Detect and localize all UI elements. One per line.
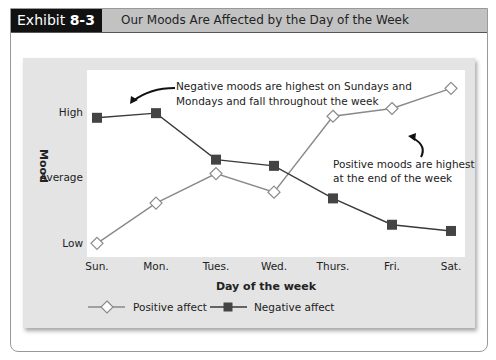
legend-label-negative: Negative affect — [254, 301, 334, 313]
y-tick-average: Average — [40, 171, 83, 183]
legend-item-negative: Negative affect — [210, 301, 334, 313]
legend-item-positive: Positive affect — [88, 301, 207, 313]
open-diamond-icon — [101, 301, 113, 313]
y-tick-low: Low — [62, 237, 83, 249]
line-chart: Mood LowAverageHigh Sun.Mon.Tues.Wed.Thu… — [0, 0, 496, 360]
filled-square-icon — [224, 303, 233, 312]
x-tick-label: Sat. — [441, 260, 462, 272]
data-point-square — [446, 226, 456, 236]
legend: Positive affect Negative affect — [88, 301, 334, 313]
x-tick-label: Mon. — [143, 260, 168, 272]
x-tick-label: Wed. — [261, 260, 287, 272]
annotation-positive-line-1: Positive moods are highest — [333, 158, 475, 170]
data-point-square — [387, 220, 397, 230]
x-tick-label: Thurs. — [316, 260, 350, 272]
data-point-square — [269, 161, 279, 171]
x-tick-labels: Sun.Mon.Tues.Wed.Thurs.Fri.Sat. — [85, 260, 461, 272]
y-tick-high: High — [59, 106, 83, 118]
y-tick-labels: LowAverageHigh — [40, 106, 84, 249]
annotation-positive-line-2: at the end of the week — [333, 172, 453, 184]
x-tick-label: Tues. — [202, 260, 230, 272]
data-point-square — [328, 193, 338, 203]
x-tick-label: Sun. — [85, 260, 108, 272]
annotation-negative-line-2: Mondays and fall throughout the week — [176, 95, 380, 107]
annotation-negative-line-1: Negative moods are highest on Sundays an… — [176, 80, 412, 92]
data-point-square — [92, 113, 102, 123]
x-tick-label: Fri. — [384, 260, 400, 272]
legend-label-positive: Positive affect — [133, 301, 207, 313]
x-axis-label: Day of the week — [216, 280, 317, 293]
data-point-square — [211, 155, 221, 165]
data-point-square — [151, 108, 161, 118]
